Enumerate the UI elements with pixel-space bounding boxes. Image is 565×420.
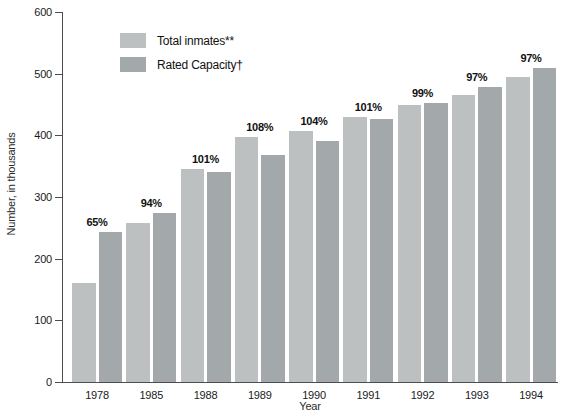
bar-rated-capacity-1991 bbox=[370, 119, 394, 382]
bar-total-inmates-1993 bbox=[452, 95, 476, 382]
bar-total-inmates-1994 bbox=[506, 77, 530, 382]
y-axis-title: Number, in thousands bbox=[5, 114, 17, 254]
bar-groups: 65%197894%1985101%1988108%1989104%199010… bbox=[72, 12, 556, 382]
bar-total-inmates-1991 bbox=[343, 117, 367, 382]
bar-total-inmates-1989 bbox=[235, 137, 259, 382]
percent-label-1988: 101% bbox=[173, 153, 239, 165]
percent-label-1990: 104% bbox=[281, 115, 347, 127]
y-tick-label: 0 bbox=[46, 376, 52, 388]
bar-rated-capacity-1988 bbox=[207, 172, 231, 382]
percent-label-1985: 94% bbox=[118, 197, 184, 209]
bar-total-inmates-1985 bbox=[126, 223, 150, 382]
bar-rated-capacity-1990 bbox=[316, 141, 340, 382]
percent-label-1994: 97% bbox=[498, 52, 564, 64]
bar-total-inmates-1978 bbox=[72, 283, 96, 382]
y-tick bbox=[55, 259, 62, 260]
bar-group-1993: 97%1993 bbox=[452, 12, 502, 382]
y-tick-label: 300 bbox=[34, 191, 52, 203]
bar-rated-capacity-1992 bbox=[424, 103, 448, 382]
y-tick bbox=[55, 197, 62, 198]
bar-total-inmates-1990 bbox=[289, 131, 313, 382]
bar-group-1990: 104%1990 bbox=[289, 12, 339, 382]
bar-total-inmates-1988 bbox=[181, 169, 205, 382]
bar-group-1989: 108%1989 bbox=[235, 12, 285, 382]
percent-label-1991: 101% bbox=[335, 101, 401, 113]
y-tick-label: 200 bbox=[34, 253, 52, 265]
y-tick bbox=[55, 12, 62, 13]
y-tick-label: 500 bbox=[34, 68, 52, 80]
bar-group-1992: 99%1992 bbox=[398, 12, 448, 382]
x-axis-title: Year bbox=[62, 400, 558, 412]
y-tick-label: 600 bbox=[34, 6, 52, 18]
percent-label-1978: 65% bbox=[64, 216, 130, 228]
bar-rated-capacity-1993 bbox=[478, 87, 502, 382]
y-tick bbox=[55, 382, 62, 383]
bar-group-1985: 94%1985 bbox=[126, 12, 176, 382]
bar-total-inmates-1992 bbox=[398, 105, 422, 382]
bar-group-1994: 97%1994 bbox=[506, 12, 556, 382]
bar-rated-capacity-1978 bbox=[99, 232, 123, 382]
percent-label-1993: 97% bbox=[444, 71, 510, 83]
y-tick-label: 100 bbox=[34, 314, 52, 326]
bar-rated-capacity-1994 bbox=[533, 68, 557, 383]
plot-area: Total inmates** Rated Capacity† 65%19789… bbox=[62, 12, 558, 383]
bar-group-1978: 65%1978 bbox=[72, 12, 122, 382]
bar-rated-capacity-1985 bbox=[153, 213, 177, 382]
y-tick-label: 400 bbox=[34, 129, 52, 141]
percent-label-1992: 99% bbox=[390, 87, 456, 99]
y-tick bbox=[55, 135, 62, 136]
y-tick bbox=[55, 74, 62, 75]
bar-group-1991: 101%1991 bbox=[343, 12, 393, 382]
bar-rated-capacity-1989 bbox=[261, 155, 285, 382]
bar-group-1988: 101%1988 bbox=[181, 12, 231, 382]
jail-population-bar-chart: Number, in thousands Total inmates** Rat… bbox=[0, 0, 565, 420]
y-tick bbox=[55, 320, 62, 321]
